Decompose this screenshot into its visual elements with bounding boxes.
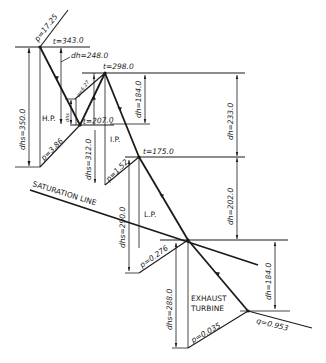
state-point-2 xyxy=(78,123,81,126)
label-dh-248: dh=248.0 xyxy=(71,51,108,60)
state-point-3 xyxy=(103,71,106,74)
label-p-0-035: p=0.035 xyxy=(189,321,223,346)
state-point-6 xyxy=(246,309,249,312)
leader-dh-248 xyxy=(61,57,70,62)
label-dh-184-exh: dh=184.0 xyxy=(264,263,273,300)
arrow-head-icon xyxy=(144,119,146,123)
label-dhs-288: dhs=288.0 xyxy=(165,289,174,330)
arrow-head-icon xyxy=(274,305,276,309)
arrow-head-icon xyxy=(28,48,31,53)
label-t-343: t=343.0 xyxy=(53,35,84,46)
label-t-298: t=298.0 xyxy=(103,62,134,71)
label-p-6-27: p=6.27 xyxy=(74,78,91,99)
arrow-head-icon xyxy=(93,75,95,79)
label-p-1-52: p=1.52 xyxy=(103,157,130,184)
label-ip: I.P. xyxy=(110,135,120,144)
label-dh-233: dh=233.0 xyxy=(226,103,235,140)
label-t-207: t=207.0 xyxy=(83,115,114,126)
state-point-5 xyxy=(186,238,189,241)
flow-arrow-icon xyxy=(118,107,123,111)
label-p-0-276: p=0.276 xyxy=(137,243,170,270)
arrow-head-icon xyxy=(60,48,63,53)
label-turbine: TURBINE xyxy=(190,304,224,313)
label-dhs-350: dhs=350.0 xyxy=(18,109,27,150)
state-point-1 xyxy=(38,45,41,48)
label-lp: L.P. xyxy=(144,210,156,219)
arrow-head-icon xyxy=(236,152,238,156)
arrow-head-icon xyxy=(28,161,31,166)
label-hp: H.P. xyxy=(42,114,56,123)
label-dhs-reheat: dhs xyxy=(64,113,70,122)
arrow-head-icon xyxy=(175,243,177,247)
label-t-175: t=175.0 xyxy=(143,147,174,156)
label-quality: q=0.953 xyxy=(256,316,290,333)
arrow-head-icon xyxy=(70,120,72,124)
arrow-head-icon xyxy=(70,100,72,104)
arrow-head-icon xyxy=(236,235,238,239)
arrow-head-icon xyxy=(94,179,96,183)
arrow-head-icon xyxy=(236,158,238,162)
saturation-line xyxy=(30,190,258,265)
state-point-4 xyxy=(137,155,140,158)
arrow-head-icon xyxy=(274,242,276,246)
label-dhs-290: dhs=290.0 xyxy=(118,207,127,248)
arrow-head-icon xyxy=(236,75,238,79)
label-dh-202: dh=202.0 xyxy=(226,188,235,225)
label-dhs-312: dhs=312.0 xyxy=(84,139,93,180)
label-p-3-86: p=3.86 xyxy=(38,136,65,163)
label-dh-184-ip: dh=184.0 xyxy=(134,81,143,118)
mollier-diagram: p=17.25 t=343.0 dh=248.0 t=298.0 p=6.27 … xyxy=(0,0,326,363)
arrow-head-icon xyxy=(175,343,177,347)
arrow-head-icon xyxy=(144,75,146,79)
arrow-head-icon xyxy=(60,119,63,124)
label-exhaust: EXHAUST xyxy=(191,294,227,303)
